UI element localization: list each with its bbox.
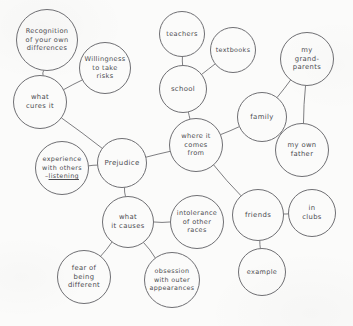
edge-school-to-textbooks	[202, 64, 215, 74]
node-label-what-cures-it: what cures it	[24, 93, 56, 110]
node-label-recognition: Recognition of your own differences	[24, 27, 71, 53]
node-label-grandparents: my grand- parents	[291, 46, 323, 72]
node-where-from[interactable]: where it comes from	[169, 118, 223, 172]
node-label-prejudice: Prejudice	[102, 159, 141, 168]
node-label-example: example	[245, 268, 279, 277]
node-label-friends: friends	[243, 211, 273, 220]
node-intolerance[interactable]: intolerance of other races	[170, 195, 224, 249]
node-grandparents[interactable]: my grand- parents	[280, 32, 334, 86]
node-label-obsession: obsession with outer appearances	[147, 267, 196, 293]
node-textbooks[interactable]: textbooks	[210, 27, 256, 73]
edge-prejudice-to-what-causes	[124, 188, 125, 196]
node-example[interactable]: example	[238, 248, 286, 296]
node-label-textbooks: textbooks	[214, 46, 253, 55]
concept-map-canvas: Recognition of your own differencesWilli…	[0, 0, 353, 326]
node-label-intolerance: intolerance of other races	[175, 209, 219, 235]
edge-family-to-grandparents	[277, 80, 290, 97]
node-experience[interactable]: experiencewith others–listening	[35, 141, 89, 195]
node-what-cures-it[interactable]: what cures it	[13, 75, 67, 129]
node-fear[interactable]: fear of being different	[57, 250, 111, 304]
edge-experience-to-prejudice	[89, 165, 97, 166]
node-label-family: family	[248, 113, 275, 122]
node-label-in-clubs: in clubs	[300, 204, 324, 221]
node-teachers[interactable]: teachers	[159, 11, 205, 57]
node-label-school: school	[169, 85, 197, 94]
edge-willingness-to-what-cures-it	[64, 80, 82, 89]
node-willingness[interactable]: Willingness to take risks	[79, 42, 131, 94]
node-label-willingness: Willingness to take risks	[82, 55, 127, 81]
underlined-text: listening	[49, 172, 79, 180]
node-recognition[interactable]: Recognition of your own differences	[16, 9, 78, 71]
node-label-where-from: where it comes from	[179, 132, 213, 158]
node-label-own-father: my own father	[286, 141, 319, 158]
node-in-clubs[interactable]: in clubs	[288, 189, 336, 237]
node-prejudice[interactable]: Prejudice	[97, 138, 147, 188]
node-school[interactable]: school	[159, 65, 207, 113]
edge-where-from-to-friends	[214, 165, 241, 195]
node-label-what-causes: what it causes	[109, 213, 146, 230]
edge-grandparents-to-own-father	[304, 86, 306, 123]
edge-prejudice-to-where-from	[146, 151, 170, 157]
node-what-causes[interactable]: what it causes	[102, 196, 154, 248]
node-obsession[interactable]: obsession with outer appearances	[144, 252, 200, 308]
edge-where-from-to-family	[221, 127, 239, 135]
node-own-father[interactable]: my own father	[275, 123, 329, 177]
node-label-experience: experiencewith others–listening	[40, 155, 84, 181]
node-label-fear: fear of being different	[66, 264, 102, 290]
edge-what-causes-to-obsession	[144, 243, 155, 258]
node-friends[interactable]: friends	[232, 189, 284, 241]
edge-what-causes-to-fear	[101, 242, 112, 256]
node-label-teachers: teachers	[164, 30, 200, 39]
